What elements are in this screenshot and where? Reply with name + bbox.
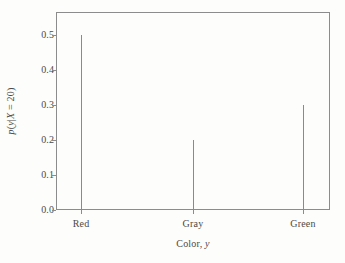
- y-axis-title-p: p: [5, 129, 16, 134]
- ytick-mark-0: [52, 210, 56, 211]
- x-axis-title-prefix: Color,: [176, 238, 205, 249]
- y-axis-title-y: y: [5, 121, 16, 126]
- figure-container: 0.0 0.1 0.2 0.3 0.4 0.5 Red Gray Green C…: [0, 0, 345, 263]
- stem-green: [303, 105, 304, 210]
- xtick-label-red: Red: [73, 218, 90, 229]
- xtick-mark-gray: [193, 210, 194, 214]
- xtick-label-green: Green: [290, 218, 315, 229]
- xtick-mark-red: [81, 210, 82, 214]
- stem-red: [81, 35, 82, 210]
- stem-gray: [193, 140, 194, 210]
- x-axis-title: Color, y: [176, 238, 209, 249]
- y-axis-title-open: (: [5, 126, 16, 130]
- x-axis-title-variable: y: [205, 238, 210, 249]
- xtick-mark-green: [303, 210, 304, 214]
- y-axis-title-bar: |: [5, 119, 16, 121]
- y-axis-title-X: X: [5, 113, 16, 119]
- xtick-label-gray: Gray: [183, 218, 204, 229]
- y-axis-title-value: = 20): [5, 87, 16, 112]
- y-axis-title: p(y|X = 20): [5, 87, 16, 134]
